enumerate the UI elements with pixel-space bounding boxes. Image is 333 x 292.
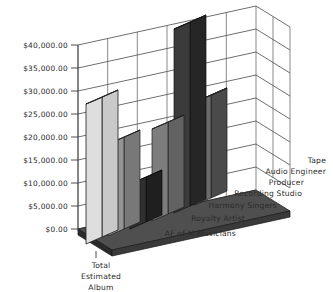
y-tick-label: $10,000.00: [23, 179, 68, 188]
category-label-royalty-artist: Royalty Artist: [191, 214, 245, 223]
y-tick-label: $5,000.00: [28, 202, 68, 211]
category-label-harmony-singers: Harmony Singers: [209, 201, 277, 210]
y-axis-tick-labels: $40,000.00 $35,000.00 $30,000.00 $25,000…: [23, 41, 68, 234]
front-category-line-2: Estimated: [81, 272, 121, 281]
category-label-audio-engineer: Audio Engineer: [265, 167, 326, 176]
y-tick-label: $35,000.00: [23, 64, 68, 73]
grid-right-wall: [256, 6, 290, 188]
y-tick-label: $40,000.00: [23, 41, 68, 50]
category-label-recording-studio: Recording Studio: [234, 189, 302, 198]
chart-canvas: $40,000.00 $35,000.00 $30,000.00 $25,000…: [0, 0, 333, 292]
y-tick-label: $0.00: [46, 225, 68, 234]
category-label-tape: Tape: [307, 156, 326, 165]
front-category-label: Total Estimated Album: [81, 261, 121, 292]
y-tick-label: $20,000.00: [23, 133, 68, 142]
bar-total-estimated-album[interactable]: [86, 90, 118, 244]
bar-chart-3d: $40,000.00 $35,000.00 $30,000.00 $25,000…: [0, 0, 333, 292]
y-tick-label: $30,000.00: [23, 87, 68, 96]
front-category-line-3: Album: [88, 283, 113, 292]
front-category-line-1: Total: [91, 261, 111, 270]
y-tick-label: $25,000.00: [23, 110, 68, 119]
y-tick-label: $15,000.00: [23, 156, 68, 165]
y-axis: [71, 45, 78, 231]
category-label-af-of-m-musicians: AF of M Musicians: [165, 229, 236, 238]
category-label-producer: Producer: [269, 178, 305, 187]
